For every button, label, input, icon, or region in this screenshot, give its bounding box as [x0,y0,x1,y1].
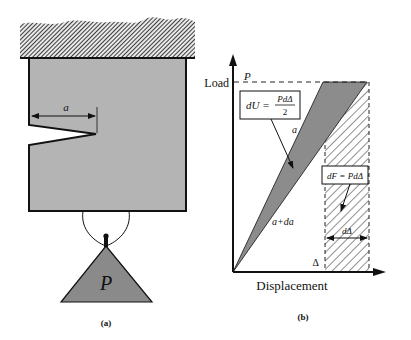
energy-box-numerator: PdΔ [276,94,292,104]
load-level-label: P [243,70,251,82]
y-axis-label: Load [204,76,229,90]
energy-pointer-arrow [271,119,293,168]
panel-b: Load P Displacement Δ a a+da dU = PdΔ 2 … [204,54,386,322]
crack-length-label: a [63,101,69,113]
cracked-specimen-block [29,58,186,211]
caption-a: (a) [101,318,112,328]
curve-a-plus-da-label: a+da [272,216,294,227]
work-box-text: dF = PdΔ [327,171,363,181]
y-axis-arrow-icon [229,54,237,66]
x-axis-arrow-icon [373,268,386,276]
displacement-increment-label: dΔ [342,226,352,236]
panel-a: a P (a) [20,17,195,328]
fixed-support-wall [20,17,195,58]
fracture-energy-diagram: a P (a) Load P Displacement Δ a a+da [0,0,411,340]
x-axis-label: Displacement [256,278,328,293]
energy-box-lhs: dU = [246,99,270,111]
load-label-p: P [99,272,112,294]
energy-box-denominator: 2 [283,107,288,117]
caption-b: (b) [298,312,309,322]
hook-knob [103,233,108,238]
curve-a-label: a [292,124,297,135]
displacement-delta-label: Δ [313,257,320,268]
